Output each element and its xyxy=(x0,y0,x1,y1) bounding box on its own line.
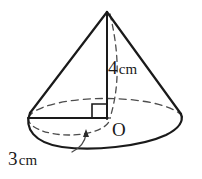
height-unit: cm xyxy=(119,61,138,77)
height-value: 4 xyxy=(108,57,118,78)
cone-left-slant xyxy=(30,12,107,113)
height-label: 4cm xyxy=(108,58,137,77)
right-angle-marker xyxy=(92,104,106,118)
radius-label: 3cm xyxy=(8,149,37,168)
radius-value: 3 xyxy=(8,148,18,169)
center-point-label: O xyxy=(112,120,126,139)
base-front-arc-dashed xyxy=(28,118,110,135)
cone-figure: 4cm 3cm O xyxy=(0,0,202,179)
base-back-arc-dashed xyxy=(28,98,183,118)
radius-unit: cm xyxy=(19,152,38,168)
